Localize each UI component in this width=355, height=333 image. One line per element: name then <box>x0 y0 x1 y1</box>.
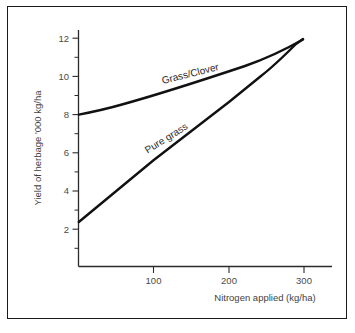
y-tick-label-4: 4 <box>64 185 69 196</box>
x-tick-label-100: 100 <box>146 275 162 286</box>
figure-container: 12 10 8 6 4 2 100 200 300 Yield of herba… <box>0 0 355 333</box>
x-tick-label-200: 200 <box>221 275 237 286</box>
y-tick-label-8: 8 <box>64 109 69 120</box>
series-line-pure-grass <box>79 39 303 222</box>
y-tick-label-12: 12 <box>58 33 69 44</box>
x-axis-title: Nitrogen applied (kg/ha) <box>214 292 315 303</box>
x-tick-label-300: 300 <box>296 275 312 286</box>
y-tick-label-10: 10 <box>58 71 69 82</box>
caption-cutoff-sliver <box>9 326 349 332</box>
y-axis-title: Yield of herbage '000 kg/ha <box>32 90 43 206</box>
series-label-grass-clover: Grass/Clover <box>161 61 221 86</box>
y-tick-label-2: 2 <box>64 224 69 235</box>
chart-plot-area: 12 10 8 6 4 2 100 200 300 Yield of herba… <box>0 0 355 333</box>
x-axis-major-ticks <box>154 267 305 274</box>
y-tick-label-6: 6 <box>64 147 69 158</box>
